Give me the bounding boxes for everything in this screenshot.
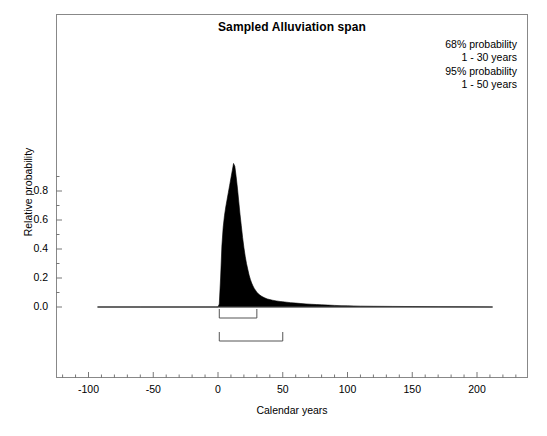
x-tick-label: -100 [59, 383, 119, 395]
x-tick-label: 100 [318, 383, 378, 395]
chart-figure: Sampled Alluviation span 68% probability… [0, 0, 547, 436]
x-tick-label: 0 [188, 383, 248, 395]
y-tick-label: 0.2 [8, 271, 48, 283]
annotation-line-68-label: 68% probability [445, 38, 517, 51]
x-axis-title: Calendar years [56, 404, 528, 416]
chart-title: Sampled Alluviation span [56, 20, 528, 34]
annotation-line-95-label: 95% probability [445, 65, 517, 78]
x-tick-label: 50 [253, 383, 313, 395]
y-axis-title: Relative probability [22, 112, 34, 272]
probability-annotation: 68% probability 1 - 30 years 95% probabi… [445, 38, 517, 92]
x-tick-label: 150 [382, 383, 442, 395]
annotation-line-68-range: 1 - 30 years [445, 51, 517, 64]
annotation-line-95-range: 1 - 50 years [445, 78, 517, 91]
x-tick-label: -50 [123, 383, 183, 395]
x-tick-label: 200 [447, 383, 507, 395]
y-tick-label: 0.0 [8, 300, 48, 312]
